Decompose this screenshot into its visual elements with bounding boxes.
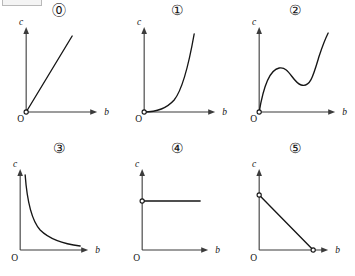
y-axis-arrow-icon	[256, 169, 262, 176]
graph-panel-1: ① c b O	[118, 0, 236, 138]
origin-open-marker	[142, 110, 146, 114]
x-axis-arrow-icon	[321, 247, 328, 253]
y-axis-arrow-icon	[256, 27, 262, 34]
panel-plot-1: c b O	[118, 20, 236, 136]
y-axis-label: c	[137, 17, 142, 27]
data-curve-5	[259, 195, 313, 250]
x-axis-arrow-icon	[90, 109, 97, 115]
y-axis-label: c	[135, 159, 140, 169]
graph-panel-3: ③ c b O	[0, 138, 118, 276]
origin-label: O	[17, 114, 24, 124]
panel-title-4: ④	[118, 142, 236, 156]
panel-plot-0: c b O	[0, 20, 118, 136]
graph-panel-grid: ⓪ c b O ①	[0, 0, 355, 276]
origin-open-marker	[257, 110, 261, 114]
origin-open-marker	[24, 110, 28, 114]
y-axis-label: c	[252, 159, 257, 169]
y-axis-arrow-icon	[23, 27, 29, 34]
origin-label: O	[11, 253, 18, 263]
panel-plot-5: c b O	[237, 158, 355, 274]
y-intercept-open-marker	[140, 199, 144, 203]
graph-panel-5: ⑤ c b O	[237, 138, 355, 276]
y-axis-arrow-icon	[17, 169, 23, 176]
x-axis-label: b	[222, 107, 227, 117]
x-intercept-open-marker	[311, 248, 315, 252]
graph-panel-2: ② c b O	[237, 0, 355, 138]
data-curve-0	[26, 36, 72, 112]
x-axis-label: b	[95, 245, 100, 255]
graph-panel-4: ④ c b O	[118, 138, 236, 276]
panel-plot-4: c b O	[118, 158, 236, 274]
x-axis-arrow-icon	[208, 109, 215, 115]
panel-plot-3: c b O	[0, 158, 118, 274]
data-curve-2	[259, 33, 328, 112]
x-axis-label: b	[342, 107, 347, 117]
y-intercept-open-marker	[257, 193, 261, 197]
panel-title-3: ③	[0, 142, 118, 156]
x-axis-arrow-icon	[201, 247, 208, 253]
data-curve-1	[144, 34, 194, 112]
origin-label: O	[135, 114, 142, 124]
x-axis-label: b	[335, 245, 340, 255]
x-axis-arrow-icon	[328, 109, 335, 115]
origin-label: O	[133, 253, 140, 263]
x-axis-label: b	[104, 107, 109, 117]
origin-label: O	[250, 114, 257, 124]
y-axis-label: c	[19, 17, 24, 27]
y-axis-arrow-icon	[140, 169, 146, 176]
y-axis-arrow-icon	[142, 27, 148, 34]
panel-title-0: ⓪	[0, 4, 118, 18]
y-axis-label: c	[13, 159, 18, 169]
graph-panel-0: ⓪ c b O	[0, 0, 118, 138]
origin-label: O	[250, 253, 257, 263]
y-axis-label: c	[252, 17, 257, 27]
panel-title-2: ②	[237, 4, 355, 18]
panel-title-1: ①	[118, 4, 236, 18]
panel-title-5: ⑤	[237, 142, 355, 156]
x-axis-arrow-icon	[81, 247, 88, 253]
data-curve-3	[25, 175, 80, 246]
x-axis-label: b	[215, 245, 220, 255]
panel-plot-2: c b O	[237, 20, 355, 136]
